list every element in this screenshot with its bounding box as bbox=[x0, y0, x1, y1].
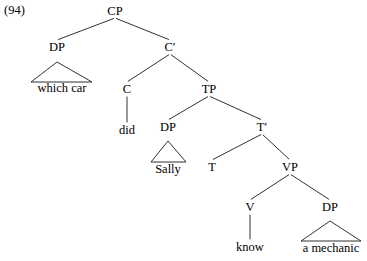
node-label-vp: VP bbox=[282, 161, 298, 174]
branch-cbar-tp bbox=[171, 55, 208, 81]
node-label-c: C bbox=[123, 83, 131, 96]
node-label-dp1: DP bbox=[49, 41, 65, 54]
node-label-tbar: T′ bbox=[257, 121, 267, 134]
branch-tp-dp2 bbox=[169, 97, 207, 119]
branch-tbar-t bbox=[213, 135, 260, 160]
node-label-cp: CP bbox=[107, 5, 122, 18]
leaf-label-a-mechanic: a mechanic bbox=[303, 242, 360, 255]
leaf-label-which-car: which car bbox=[38, 82, 87, 95]
tri-a-mechanic bbox=[301, 221, 361, 241]
leaf-label-did: did bbox=[119, 124, 135, 137]
leaf-label-sally: Sally bbox=[155, 163, 181, 176]
branch-tp-tbar bbox=[210, 97, 260, 120]
branch-cp-dp1 bbox=[58, 19, 113, 40]
branch-cbar-c bbox=[128, 55, 168, 81]
branch-vp-dp3 bbox=[291, 175, 328, 199]
leaf-label-know: know bbox=[236, 241, 264, 254]
branch-tbar-vp bbox=[263, 135, 289, 159]
node-label-cbar: C′ bbox=[164, 41, 175, 54]
tri-sally bbox=[151, 141, 186, 162]
branch-vp-v bbox=[251, 175, 288, 199]
node-label-dp2: DP bbox=[160, 121, 176, 134]
node-label-dp3: DP bbox=[322, 201, 338, 214]
branch-cp-cbar bbox=[116, 19, 168, 40]
syntax-tree-diagram: (94) CPDPC′CTPDPT′TVPVDPwhich cardidSall… bbox=[0, 0, 367, 261]
node-label-t: T bbox=[208, 161, 216, 174]
tri-which-car bbox=[31, 62, 92, 82]
node-label-v: V bbox=[245, 201, 254, 214]
node-label-tp: TP bbox=[202, 83, 217, 96]
